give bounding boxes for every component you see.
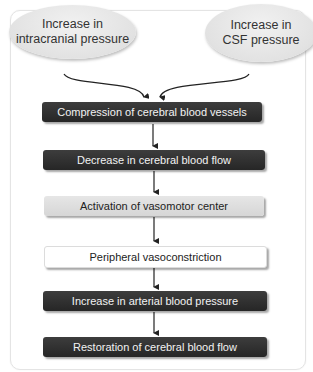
step-label: Restoration of cerebral blood flow [73, 341, 237, 353]
step-decrease-in-cerebral-blood-flow: Decrease in cerebral blood flow [43, 150, 265, 170]
curved-arrow-left [64, 74, 144, 97]
step-increase-in-arterial-blood-pressure: Increase in arterial blood pressure [43, 291, 267, 311]
step-label: Peripheral vasoconstriction [89, 251, 221, 263]
step-peripheral-vasoconstriction: Peripheral vasoconstriction [44, 246, 267, 268]
step-label: Increase in arterial blood pressure [72, 295, 238, 307]
step-label: Decrease in cerebral blood flow [77, 154, 231, 166]
step-compression-of-cerebral-blood-vessels: Compression of cerebral blood vessels [42, 102, 262, 122]
step-label: Compression of cerebral blood vessels [57, 106, 247, 118]
step-restoration-of-cerebral-blood-flow: Restoration of cerebral blood flow [43, 337, 267, 357]
curved-arrow-right [160, 74, 249, 97]
step-activation-of-vasomotor-center: Activation of vasomotor center [44, 196, 264, 216]
step-label: Activation of vasomotor center [80, 200, 228, 212]
connector-arrows [0, 0, 313, 372]
